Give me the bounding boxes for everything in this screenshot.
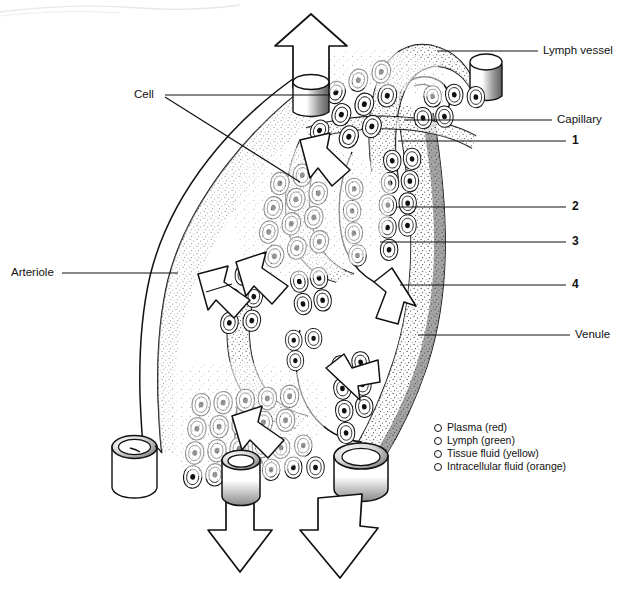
venule-cut-end — [334, 443, 388, 502]
capillary-bed-figure — [0, 0, 631, 590]
label-number-3: 3 — [572, 235, 579, 247]
legend-bullet-icon — [434, 463, 442, 471]
legend-label: Intracellular fluid (orange) — [447, 460, 566, 473]
label-number-1: 1 — [572, 134, 579, 146]
label-capillary: Capillary — [557, 114, 602, 126]
arteriole-cut-end — [112, 436, 157, 499]
label-cell: Cell — [134, 89, 154, 101]
legend-item-plasma: Plasma (red) — [434, 421, 566, 434]
legend-bullet-icon — [434, 450, 442, 458]
legend-label: Plasma (red) — [447, 421, 507, 434]
legend-bullet-icon — [434, 437, 442, 445]
flow-arrow-bottom-right — [300, 494, 378, 578]
legend-item-intracellular-fluid: Intracellular fluid (orange) — [434, 460, 566, 473]
legend-item-tissue-fluid: Tissue fluid (yellow) — [434, 447, 566, 460]
label-number-4: 4 — [572, 278, 579, 290]
cell-cluster-lower-pocket — [285, 328, 323, 371]
label-arteriole: Arteriole — [11, 267, 54, 279]
legend-bullet-icon — [434, 424, 442, 432]
capillary-cut-end-bottom — [222, 450, 260, 505]
legend-item-lymph: Lymph (green) — [434, 434, 566, 447]
label-number-2: 2 — [572, 200, 579, 212]
legend-label: Lymph (green) — [447, 434, 515, 447]
label-lymph-vessel: Lymph vessel — [543, 45, 613, 57]
legend: Plasma (red) Lymph (green) Tissue fluid … — [434, 421, 566, 473]
legend-label: Tissue fluid (yellow) — [447, 447, 539, 460]
label-venule: Venule — [575, 329, 610, 341]
flow-arrow-bottom-left — [208, 500, 272, 572]
scan-artifact — [0, 5, 240, 16]
